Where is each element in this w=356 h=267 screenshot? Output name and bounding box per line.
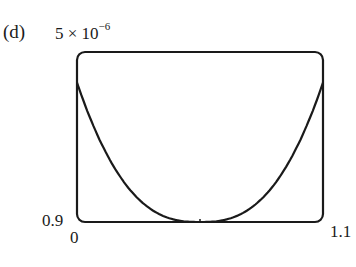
data-curve xyxy=(77,83,323,222)
plot-area xyxy=(0,0,356,267)
plot-frame xyxy=(77,52,323,222)
